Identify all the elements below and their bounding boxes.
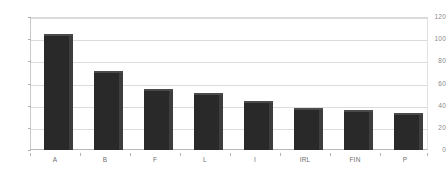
x-tick-label-l: L xyxy=(185,157,225,164)
y-tick-mark-0 xyxy=(28,150,31,151)
x-tick-label-irl: IRL xyxy=(285,157,325,164)
bar-side xyxy=(119,71,123,150)
bar-top xyxy=(44,34,73,36)
x-tick-mark-8 xyxy=(427,153,428,156)
bar-chart: 120 100 80 60 40 20 0 xyxy=(0,0,446,173)
x-tick-label-i: I xyxy=(235,157,275,164)
bar-top xyxy=(294,108,323,110)
bar-top xyxy=(194,93,223,95)
x-tick-mark-3 xyxy=(180,153,181,156)
x-tick-label-b: B xyxy=(85,157,125,164)
bar-b xyxy=(94,71,123,150)
x-tick-mark-6 xyxy=(330,153,331,156)
bar-face xyxy=(144,89,169,150)
x-tick-label-fin: FIN xyxy=(335,157,375,164)
bar-face xyxy=(194,93,219,150)
bar-top xyxy=(244,101,273,103)
x-tick-label-f: F xyxy=(135,157,175,164)
bar-face xyxy=(94,71,119,150)
bar-irl xyxy=(294,108,323,150)
x-tick-mark-0 xyxy=(30,153,31,156)
bar-face xyxy=(244,101,269,150)
bar-face xyxy=(344,110,369,150)
bar-p xyxy=(394,113,423,150)
x-tick-mark-1 xyxy=(80,153,81,156)
bar-top xyxy=(94,71,123,73)
bar-a xyxy=(44,34,73,150)
x-tick-label-a: A xyxy=(35,157,75,164)
x-axis: A B F L I IRL FIN P xyxy=(30,153,428,169)
bar-face xyxy=(394,113,419,150)
bar-side xyxy=(169,89,173,150)
x-tick-label-p: P xyxy=(385,157,425,164)
bar-f xyxy=(144,89,173,150)
bar-l xyxy=(194,93,223,150)
bar-top xyxy=(394,113,423,115)
bar-side xyxy=(269,101,273,150)
bar-side xyxy=(319,108,323,150)
bar-face xyxy=(294,108,319,150)
bars-layer xyxy=(30,17,428,150)
bar-side xyxy=(219,93,223,150)
bar-fin xyxy=(344,110,373,150)
bar-side xyxy=(69,34,73,150)
x-tick-mark-7 xyxy=(380,153,381,156)
bar-side xyxy=(369,110,373,150)
x-tick-mark-4 xyxy=(230,153,231,156)
bar-top xyxy=(344,110,373,112)
x-tick-mark-2 xyxy=(130,153,131,156)
bar-i xyxy=(244,101,273,150)
bar-top xyxy=(144,89,173,91)
x-tick-mark-5 xyxy=(280,153,281,156)
bar-face xyxy=(44,34,69,150)
bar-side xyxy=(419,113,423,150)
